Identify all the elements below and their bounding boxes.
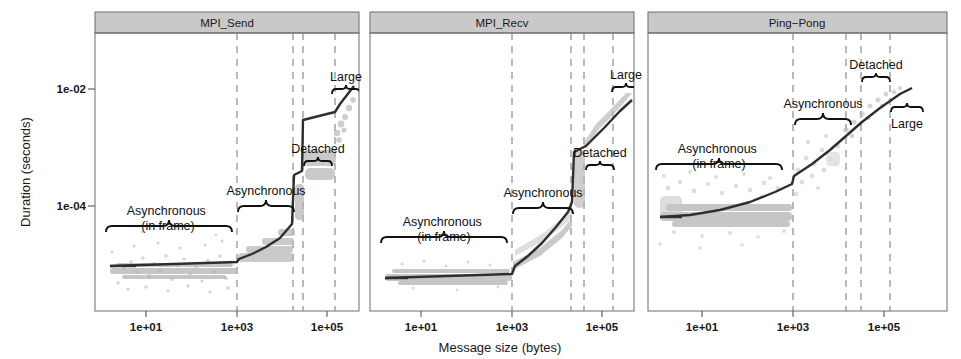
figure-background [0,0,961,359]
chart-figure: Duration (seconds) 1e-02 1e-04 Message s… [0,0,961,359]
chart-canvas: Duration (seconds) 1e-02 1e-04 Message s… [0,0,961,359]
annotation-line-2: (in frame) [692,157,745,171]
annotation-async-mpi-send: Asynchronous [226,184,305,198]
annotation-detached-ping-pong: Detached [849,58,903,72]
annotation-large-mpi-recv: Large [610,68,642,82]
annotation-line-2: (in frame) [417,230,470,244]
x-tick-label-1e01-mpi-send: 1e+01 [130,321,163,333]
panel-strip-label-ping-pong: Ping−Pong [769,17,826,29]
annotation-async-ping-pong: Asynchronous [783,97,862,111]
x-tick-label-1e05-mpi-recv: 1e+05 [586,321,619,333]
x-tick-label-1e01-ping-pong: 1e+01 [686,321,719,333]
x-tick-label-1e03-ping-pong: 1e+03 [777,321,809,333]
x-tick-label-1e01-mpi-recv: 1e+01 [405,321,438,333]
annotation-line-1: Asynchronous [403,215,482,229]
x-tick-label-1e05-ping-pong: 1e+05 [868,321,901,333]
annotation-async-mpi-recv: Asynchronous [503,186,582,200]
annotation-detached-mpi-send: Detached [291,142,345,156]
x-tick-label-1e05-mpi-send: 1e+05 [311,321,344,333]
y-tick-label-1e-02: 1e-02 [57,83,86,95]
y-tick-label-1e-04: 1e-04 [57,200,87,212]
annotation-line-1: Asynchronous [678,142,757,156]
y-axis-title: Duration (seconds) [18,117,33,227]
x-tick-label-1e03-mpi-send: 1e+03 [221,321,253,333]
x-tick-label-1e03-mpi-recv: 1e+03 [496,321,528,333]
annotation-line-1: Asynchronous [127,204,206,218]
annotation-detached-mpi-recv: Detached [573,146,627,160]
annotation-line-2: (in frame) [141,219,194,233]
annotation-large-mpi-send: Large [330,70,362,84]
panel-strip-label-mpi-recv: MPI_Recv [475,17,528,29]
annotation-large-ping-pong: Large [891,117,923,131]
panel-strip-label-mpi-send: MPI_Send [200,17,254,29]
x-axis-title: Message size (bytes) [439,340,562,355]
